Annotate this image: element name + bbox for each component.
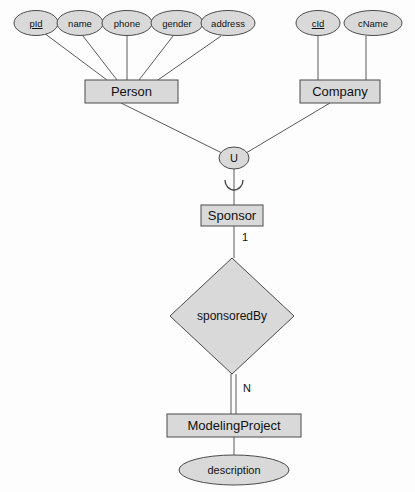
connector-address <box>155 36 221 82</box>
entity-box-person[interactable] <box>85 80 178 103</box>
person-attribute-connectors <box>44 33 221 82</box>
er-diagram-canvas: pId name phone gender address cId cName … <box>0 0 415 492</box>
entity-box-company[interactable] <box>300 80 380 103</box>
relationship-diamond-sponsoredby[interactable] <box>170 258 294 374</box>
attribute-ellipse-cname[interactable] <box>344 11 402 36</box>
entity-box-modelingproject[interactable] <box>167 414 301 437</box>
connector-name <box>83 36 117 80</box>
connector-person-union <box>121 103 222 153</box>
attribute-ellipse-gender[interactable] <box>151 11 203 36</box>
attribute-ellipse-description[interactable] <box>179 455 289 485</box>
connector-relationship-project <box>231 374 236 414</box>
union-node-shape[interactable] <box>219 147 249 169</box>
company-attribute-connectors <box>318 36 366 80</box>
attribute-ellipse-name[interactable] <box>57 11 103 36</box>
entity-box-sponsor[interactable] <box>201 205 263 226</box>
connector-pid <box>44 33 107 80</box>
connector-company-union <box>246 103 330 153</box>
attribute-ellipse-pid[interactable] <box>14 11 58 36</box>
er-diagram-svg <box>0 0 415 492</box>
company-attribute-shapes <box>296 11 402 36</box>
attribute-ellipse-phone[interactable] <box>102 11 152 36</box>
attribute-ellipse-address[interactable] <box>201 11 255 36</box>
person-attribute-shapes <box>14 11 255 36</box>
attribute-ellipse-cid[interactable] <box>296 11 340 36</box>
generalization-connectors <box>121 103 330 153</box>
